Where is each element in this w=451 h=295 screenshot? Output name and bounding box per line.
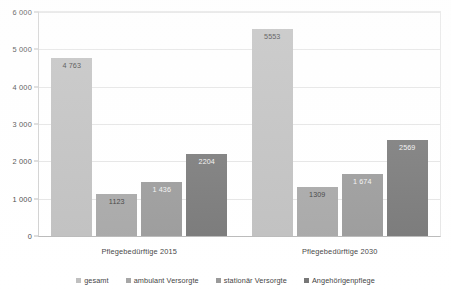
y-tick-label: 4 000	[0, 82, 32, 91]
y-tick-label: 1 000	[0, 194, 32, 203]
legend-label: stationär Versorgte	[224, 276, 287, 285]
x-axis-labels: Pflegebedürftige 2015Pflegebedürftige 20…	[39, 239, 440, 257]
y-tick-label: 0	[0, 232, 32, 241]
bars-layer: 4 76311231 4362204555313091 6742569	[39, 12, 440, 236]
legend-swatch-icon	[76, 278, 81, 283]
bar-value-label: 5553	[252, 32, 293, 41]
y-tick-label: 6 000	[0, 8, 32, 17]
legend-item[interactable]: ambulant Versorgte	[126, 276, 199, 285]
legend-swatch-icon	[216, 278, 221, 283]
bar: 4 763	[51, 58, 92, 236]
bar-value-label: 4 763	[51, 61, 92, 70]
bar: 1 674	[342, 174, 383, 236]
legend-swatch-icon	[126, 278, 131, 283]
legend-label: Angehörigenpflege	[312, 276, 375, 285]
bar-chart: 01 0002 0003 0004 0005 0006 000 4 763112…	[0, 0, 451, 295]
bar-value-label: 1 436	[141, 185, 182, 194]
bar-value-label: 1123	[96, 197, 137, 206]
legend-swatch-icon	[304, 278, 309, 283]
y-tick-label: 5 000	[0, 45, 32, 54]
bar: 5553	[252, 29, 293, 236]
bar-value-label: 1309	[297, 190, 338, 199]
bar: 1 436	[141, 182, 182, 236]
legend-item[interactable]: stationär Versorgte	[216, 276, 287, 285]
legend-item[interactable]: Angehörigenpflege	[304, 276, 375, 285]
bar-value-label: 2569	[387, 143, 428, 152]
bar: 2569	[387, 140, 428, 236]
x-category-label: Pflegebedürftige 2030	[302, 247, 377, 256]
y-axis: 01 0002 0003 0004 0005 0006 000	[0, 0, 38, 245]
legend-label: ambulant Versorgte	[134, 276, 199, 285]
chart-legend: gesamtambulant Versorgtestationär Versor…	[0, 272, 451, 288]
bar-value-label: 1 674	[342, 177, 383, 186]
y-tick-label: 2 000	[0, 157, 32, 166]
legend-label: gesamt	[84, 276, 109, 285]
bar-value-label: 2204	[186, 157, 227, 166]
bar: 1309	[297, 187, 338, 236]
bar: 2204	[186, 154, 227, 236]
x-category-label: Pflegebedürftige 2015	[102, 247, 177, 256]
legend-item[interactable]: gesamt	[76, 276, 109, 285]
y-tick-label: 3 000	[0, 120, 32, 129]
bar: 1123	[96, 194, 137, 236]
